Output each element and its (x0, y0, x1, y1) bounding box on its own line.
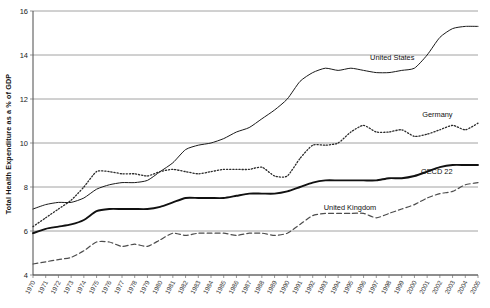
y-tick-label-16: 16 (20, 7, 28, 16)
x-tick-label-1992: 1992 (303, 279, 316, 295)
x-tick-label-1987: 1987 (240, 279, 253, 295)
x-tick-label-1983: 1983 (189, 279, 202, 295)
x-tick-label-1974: 1974 (74, 279, 87, 295)
series-label-united-states: United States (370, 53, 415, 62)
x-tick-label-1970: 1970 (24, 279, 37, 295)
y-tick-label-10: 10 (20, 139, 28, 148)
series-label-oecd-22: OECD 22 (421, 167, 453, 176)
x-tick-label-1984: 1984 (202, 279, 215, 295)
series-label-united-kingdom: United Kingdom (324, 203, 377, 212)
y-axis-title: Total Health Expenditure as a % of GDP (4, 74, 13, 215)
x-tick-label-1985: 1985 (214, 279, 227, 295)
x-tick-label-1986: 1986 (227, 279, 240, 295)
y-tick-label-8: 8 (24, 183, 28, 192)
x-tick-label-1988: 1988 (252, 279, 265, 295)
x-tick-label-1993: 1993 (316, 279, 329, 295)
x-tick-label-1976: 1976 (100, 279, 113, 295)
x-tick-label-1980: 1980 (151, 279, 164, 295)
series-line-united-kingdom (33, 183, 478, 264)
x-tick-labels: 1970197119721973197419751976197719781979… (24, 275, 482, 295)
x-tick-label-1991: 1991 (291, 279, 304, 295)
x-tick-label-1996: 1996 (354, 279, 367, 295)
y-tick-labels: 46810121416 (20, 7, 33, 280)
x-tick-label-2004: 2004 (456, 279, 469, 295)
series-label-germany: Germany (422, 110, 453, 119)
x-tick-label-2000: 2000 (405, 279, 418, 295)
gridlines (33, 11, 478, 275)
x-tick-label-2003: 2003 (443, 279, 456, 295)
x-tick-label-1972: 1972 (49, 279, 62, 295)
line-chart: 46810121416 1970197119721973197419751976… (0, 0, 490, 308)
chart-container: 46810121416 1970197119721973197419751976… (0, 0, 490, 308)
x-tick-label-1982: 1982 (176, 279, 189, 295)
x-tick-label-2001: 2001 (418, 279, 431, 295)
x-tick-label-2005: 2005 (469, 279, 482, 295)
x-tick-label-1975: 1975 (87, 279, 100, 295)
y-tick-label-14: 14 (20, 51, 28, 60)
x-tick-label-1971: 1971 (36, 279, 49, 295)
y-tick-label-12: 12 (20, 95, 28, 104)
x-tick-label-1977: 1977 (113, 279, 126, 295)
x-tick-label-2002: 2002 (430, 279, 443, 295)
y-tick-label-4: 4 (24, 271, 28, 280)
x-tick-label-1979: 1979 (138, 279, 151, 295)
x-tick-label-1998: 1998 (380, 279, 393, 295)
x-tick-label-1989: 1989 (265, 279, 278, 295)
x-tick-label-1997: 1997 (367, 279, 380, 295)
series-line-oecd-22 (33, 165, 478, 233)
x-tick-label-1978: 1978 (125, 279, 138, 295)
x-tick-label-1995: 1995 (341, 279, 354, 295)
y-tick-label-6: 6 (24, 227, 28, 236)
x-tick-label-1981: 1981 (163, 279, 176, 295)
x-tick-label-1973: 1973 (62, 279, 75, 295)
x-tick-label-1994: 1994 (329, 279, 342, 295)
x-tick-label-1999: 1999 (392, 279, 405, 295)
x-tick-label-1990: 1990 (278, 279, 291, 295)
